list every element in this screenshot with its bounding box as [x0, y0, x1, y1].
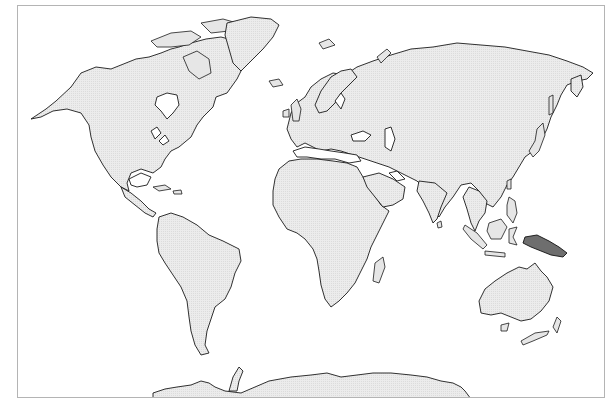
new-zealand-south: [521, 331, 549, 345]
antarctica: [153, 373, 471, 398]
map-frame: [17, 5, 605, 398]
svalbard: [319, 39, 335, 49]
tasmania: [501, 323, 509, 331]
greenland: [225, 17, 279, 71]
new-zealand-north: [553, 317, 561, 333]
south-america: [157, 213, 241, 355]
antarctic-peninsula: [229, 367, 243, 391]
cuba: [153, 185, 171, 191]
borneo: [487, 219, 507, 239]
new-guinea-highlighted: [523, 235, 567, 257]
sri-lanka: [437, 221, 442, 228]
north-america: [31, 37, 249, 191]
java: [485, 251, 505, 257]
world-map: [18, 6, 605, 398]
philippines: [507, 197, 517, 223]
iceland: [269, 79, 283, 87]
taiwan: [507, 179, 511, 189]
australia: [479, 263, 553, 321]
kamchatka: [571, 75, 583, 97]
central-america: [121, 187, 156, 217]
gulf-of-mexico: [129, 173, 151, 187]
madagascar: [373, 257, 385, 283]
sulawesi: [509, 227, 517, 245]
ireland: [283, 109, 289, 117]
hispaniola: [173, 190, 182, 194]
sakhalin: [549, 95, 553, 115]
